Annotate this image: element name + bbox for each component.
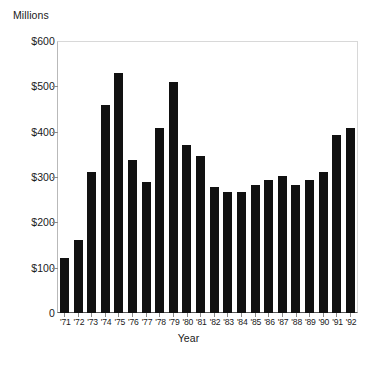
- y-axis-tick-label: $600: [31, 35, 55, 47]
- bar: [182, 145, 191, 313]
- bar: [305, 180, 314, 313]
- x-axis-tick-label: '83: [223, 317, 232, 327]
- bar: [60, 258, 69, 313]
- bar: [196, 156, 205, 313]
- x-axis-tick-label: '91: [332, 317, 341, 327]
- x-axis-tick-label: '75: [114, 317, 123, 327]
- bar: [278, 176, 287, 313]
- bar: [142, 182, 151, 313]
- x-axis-tick-label: '78: [155, 317, 164, 327]
- x-axis-tick-label: '76: [128, 317, 137, 327]
- x-axis-tick-label: '86: [264, 317, 273, 327]
- x-axis-tick-label: '72: [74, 317, 83, 327]
- x-axis-tick-label: '80: [182, 317, 191, 327]
- x-axis-tick-label: '92: [346, 317, 355, 327]
- x-axis-labels: '71'72'73'74'75'76'77'78'79'80'81'82'83'…: [58, 317, 357, 327]
- bar: [291, 185, 300, 313]
- bar: [319, 172, 328, 313]
- bar: [155, 128, 164, 313]
- bar: [251, 185, 260, 313]
- x-axis-tick-label: '84: [237, 317, 246, 327]
- bar: [332, 135, 341, 313]
- bar: [237, 192, 246, 313]
- bar: [223, 192, 232, 313]
- bar: [101, 105, 110, 313]
- x-axis-tick-label: '81: [196, 317, 205, 327]
- x-axis-tick-label: '87: [278, 317, 287, 327]
- x-axis-tick-label: '88: [291, 317, 300, 327]
- bar: [264, 180, 273, 313]
- bar: [346, 128, 355, 313]
- bar-chart: Millions 0$100$200$300$400$500$600 '71'7…: [0, 0, 377, 379]
- bar: [114, 73, 123, 313]
- bar: [169, 82, 178, 313]
- x-axis-tick-label: '79: [169, 317, 178, 327]
- bars-container: [58, 42, 357, 313]
- y-axis-tick-label: 0: [49, 307, 55, 319]
- y-axis-title: Millions: [13, 9, 49, 21]
- x-axis-title: Year: [0, 332, 377, 344]
- x-axis-tick-label: '71: [60, 317, 69, 327]
- x-axis-tick-label: '77: [142, 317, 151, 327]
- bar: [210, 187, 219, 313]
- x-axis-tick-label: '89: [305, 317, 314, 327]
- bar: [128, 160, 137, 313]
- bar: [74, 240, 83, 313]
- x-axis-tick-label: '73: [87, 317, 96, 327]
- x-axis-tick-label: '82: [210, 317, 219, 327]
- bar: [87, 172, 96, 313]
- x-axis-tick-label: '85: [251, 317, 260, 327]
- x-axis-tick-label: '90: [319, 317, 328, 327]
- x-axis-tick-label: '74: [101, 317, 110, 327]
